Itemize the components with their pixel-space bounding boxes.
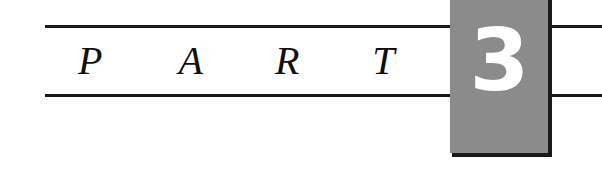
part-number: 3 xyxy=(450,14,548,106)
part-number-block-right-edge xyxy=(548,0,552,157)
part-letter-t: T xyxy=(372,41,394,81)
part-letter-p: P xyxy=(78,41,102,81)
rule-top-right xyxy=(551,25,602,28)
rule-bottom-right xyxy=(551,94,602,97)
part-letter-a: A xyxy=(178,41,202,81)
rule-bottom-left xyxy=(45,94,450,97)
part-letter-r: R xyxy=(275,41,299,81)
part-divider-page: P A R T 3 xyxy=(0,0,602,173)
part-word: P A R T xyxy=(45,32,450,89)
rule-top-left xyxy=(45,25,450,28)
part-number-block-bottom-edge xyxy=(452,153,548,157)
